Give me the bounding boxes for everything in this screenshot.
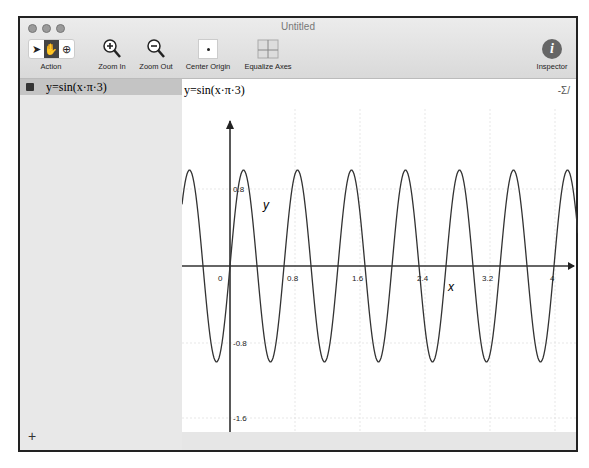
center-origin-icon [180,36,236,62]
equation-row[interactable]: y=sin(x·π·3) [20,79,182,95]
add-equation-button[interactable]: + [28,428,36,444]
window-title: Untitled [20,21,576,32]
action-group: ➤ ✋ ⊕ Action [26,36,76,71]
inspector-button[interactable]: i Inspector [532,36,572,71]
svg-text:0.8: 0.8 [287,274,299,283]
svg-text:-1.6: -1.6 [233,414,247,423]
svg-text:0.8: 0.8 [233,185,245,194]
graph-canvas[interactable]: y=sin(x·π·3) -Σ/ 00.8 1.62.4 3.24 0.8-0.… [182,79,576,432]
action-label: Action [26,62,76,71]
svg-text:-0.8: -0.8 [233,339,247,348]
y-axis-label: y [262,198,270,212]
svg-text:3.2: 3.2 [482,274,494,283]
zoom-out-button[interactable]: Zoom Out [134,36,178,71]
svg-text:2.4: 2.4 [417,274,429,283]
x-axis-label: x [447,280,455,294]
hand-icon[interactable]: ✋ [44,40,59,58]
svg-text:4: 4 [550,274,555,283]
titlebar: Untitled ➤ ✋ ⊕ Action Zoom In Zoom Out C… [20,18,576,79]
zoom-out-icon [134,36,178,62]
center-origin-button[interactable]: Center Origin [180,36,236,71]
svg-text:1.6: 1.6 [352,274,364,283]
equalize-axes-icon [238,36,298,62]
magnify-icon[interactable]: ⊕ [59,40,74,58]
plot: 00.8 1.62.4 3.24 0.8-0.8-1.6 y x [182,79,578,432]
zoom-in-icon [92,36,132,62]
equation-text[interactable]: y=sin(x·π·3) [46,80,107,95]
info-icon: i [532,36,572,62]
zoom-in-button[interactable]: Zoom In [92,36,132,71]
equation-sidebar: y=sin(x·π·3) + [20,79,182,450]
equation-checkbox[interactable] [26,83,34,91]
pointer-icon[interactable]: ➤ [29,40,44,58]
equalize-axes-button[interactable]: Equalize Axes [238,36,298,71]
app-window: Untitled ➤ ✋ ⊕ Action Zoom In Zoom Out C… [18,16,578,452]
svg-text:0: 0 [218,274,223,283]
